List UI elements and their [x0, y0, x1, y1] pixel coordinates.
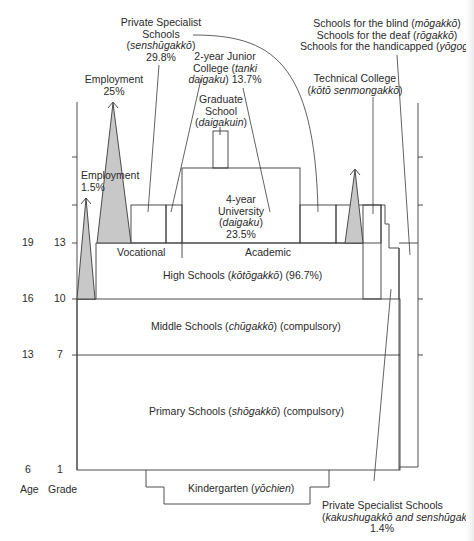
- age-19: 19: [22, 236, 34, 248]
- label-graduate-school: Graduate School (daigakuin): [190, 94, 252, 129]
- junior-college-box-left: [166, 205, 182, 243]
- technical-college-box: [363, 205, 381, 299]
- age-axis-label: Age: [20, 483, 39, 495]
- label-technical-college: Technical College (kōtō senmongakkō): [305, 73, 405, 96]
- label-junior-college: 2-year Junior College (tanki daigaku) 13…: [180, 51, 270, 86]
- label-university: 4-year University (daigaku) 23.5%: [195, 194, 287, 240]
- leader-private-specialist: [148, 65, 159, 212]
- graduate-school-box: [213, 131, 228, 168]
- label-primary-schools: Primary Schools (shōgakkō) (compulsory): [149, 406, 344, 418]
- label-private-specialist-bottom: Private Specialist Schools (kakushugakkō…: [322, 500, 442, 535]
- page-edge-shadow: [466, 0, 474, 541]
- label-high-schools: High Schools (kōtōgakkō) (96.7%): [163, 270, 322, 282]
- grade-1: 1: [57, 463, 63, 475]
- label-vocational: Vocational: [117, 247, 165, 259]
- age-13: 13: [22, 348, 34, 360]
- grade-axis-label: Grade: [48, 483, 77, 495]
- employment-triangle-1-5: [77, 198, 95, 299]
- grade-13: 13: [54, 236, 66, 248]
- employment-triangle-right: [345, 170, 363, 243]
- label-academic: Academic: [245, 247, 291, 259]
- private-specialist-stair: [381, 205, 399, 299]
- label-employment-25: Employment 25%: [84, 74, 144, 97]
- label-special-schools: Schools for the blind (mōgakkō) Schools …: [300, 18, 474, 53]
- age-6: 6: [25, 463, 31, 475]
- age-16: 16: [22, 292, 34, 304]
- label-employment-1-5: Employment 1.5%: [81, 170, 139, 193]
- grade-7: 7: [57, 348, 63, 360]
- label-kindergarten: Kindergarten (yōchien): [188, 483, 294, 495]
- leader-private-specialist-bottom: [374, 289, 391, 481]
- grade-10: 10: [54, 292, 66, 304]
- label-middle-schools: Middle Schools (chūgakkō) (compulsory): [151, 321, 341, 333]
- specialist-box-left: [131, 205, 166, 243]
